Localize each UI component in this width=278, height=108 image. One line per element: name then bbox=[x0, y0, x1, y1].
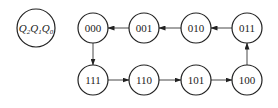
state-node-101: 101 bbox=[181, 65, 211, 95]
states: 000001010011111110101100 bbox=[78, 13, 262, 95]
state-label: 110 bbox=[136, 74, 153, 86]
state-label: 111 bbox=[85, 74, 101, 86]
legend-label: Q2Q1Q0 bbox=[19, 22, 54, 36]
state-label: 100 bbox=[239, 74, 256, 86]
state-node-001: 001 bbox=[129, 13, 159, 43]
state-label: 000 bbox=[85, 22, 102, 34]
state-node-010: 010 bbox=[181, 13, 211, 43]
state-label: 011 bbox=[239, 22, 255, 34]
state-label: 001 bbox=[136, 22, 153, 34]
state-node-111: 111 bbox=[78, 65, 108, 95]
state-node-100: 100 bbox=[232, 65, 262, 95]
state-node-011: 011 bbox=[232, 13, 262, 43]
diagram-svg: Q2Q1Q0 000001010011111110101100 bbox=[0, 0, 278, 108]
legend: Q2Q1Q0 bbox=[17, 9, 55, 47]
state-node-110: 110 bbox=[129, 65, 159, 95]
state-diagram: Q2Q1Q0 000001010011111110101100 bbox=[0, 0, 278, 108]
state-label: 101 bbox=[188, 74, 205, 86]
state-label: 010 bbox=[188, 22, 205, 34]
transitions bbox=[93, 28, 247, 80]
state-node-000: 000 bbox=[78, 13, 108, 43]
